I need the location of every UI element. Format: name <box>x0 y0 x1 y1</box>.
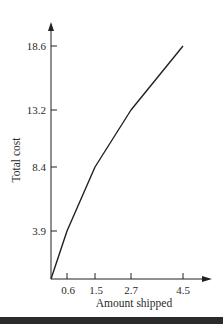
x-axis-label: Amount shipped <box>96 297 173 310</box>
y-tick-label: 13.2 <box>27 104 46 116</box>
x-tick-label: 2.7 <box>124 284 138 296</box>
chart: 18.6 13.2 8.4 3.9 0.6 1.5 2.7 4.5 Amount… <box>0 0 223 324</box>
y-tick-label: 18.6 <box>27 40 47 52</box>
bottom-border <box>0 317 223 324</box>
x-tick-label: 4.5 <box>176 284 190 296</box>
y-tick-label: 3.9 <box>32 225 46 237</box>
x-ticks: 0.6 1.5 2.7 4.5 <box>61 273 190 296</box>
y-tick-label: 8.4 <box>32 161 46 173</box>
y-axis-arrow-icon <box>48 22 54 31</box>
x-tick-label: 0.6 <box>61 284 75 296</box>
y-ticks: 18.6 13.2 8.4 3.9 <box>27 40 57 237</box>
cost-curve <box>51 46 183 279</box>
x-tick-label: 1.5 <box>89 284 103 296</box>
y-axis-label: Total cost <box>10 137 22 183</box>
x-axis-arrow-icon <box>202 276 212 282</box>
